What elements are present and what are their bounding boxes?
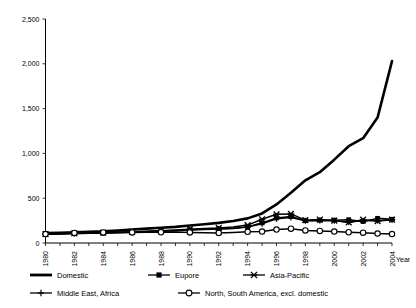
y-tick-label: 1,500 [22, 105, 40, 112]
x-tick-label: 1998 [302, 251, 309, 267]
marker-open-circle [389, 231, 394, 236]
line-chart: 05001,0001,5002,0002,500 198019821984198… [0, 0, 416, 308]
y-tick-label: 0 [36, 240, 40, 247]
x-tick-label: 2004 [389, 251, 396, 267]
marker-open-circle [186, 290, 192, 296]
x-tick-label: 1990 [186, 251, 193, 267]
y-tick-label: 500 [28, 195, 40, 202]
marker-star [251, 272, 258, 278]
legend-label: Domestic [57, 271, 89, 280]
marker-open-circle [288, 226, 293, 231]
x-axis-title: Year [396, 256, 411, 263]
legend-item-domestic[interactable]: Domestic [30, 271, 89, 280]
legend-label: Middle East, Africa [57, 289, 120, 298]
marker-open-circle [43, 231, 48, 236]
series-line [46, 61, 393, 233]
y-tick-label: 2,000 [22, 60, 40, 67]
legend-item-eupore[interactable]: Eupore [148, 271, 199, 280]
marker-open-circle [158, 230, 163, 235]
marker-open-circle [360, 230, 365, 235]
legend-label: North, South America, excl. domestic [205, 289, 328, 298]
y-tick-label: 2,500 [22, 16, 40, 23]
chart-legend: DomesticEuporeAsia-PacificMiddle East, A… [30, 271, 328, 298]
marker-open-circle [259, 229, 264, 234]
marker-open-circle [375, 231, 380, 236]
x-axis-tick-group: 1980198219841986198819901992199419961998… [42, 243, 396, 267]
legend-item-middle-east-africa[interactable]: Middle East, Africa [30, 289, 120, 298]
marker-open-circle [187, 230, 192, 235]
marker-open-circle [216, 230, 221, 235]
marker-open-circle [346, 230, 351, 235]
marker-open-circle [129, 230, 134, 235]
x-tick-label: 1994 [244, 251, 251, 267]
y-axis-tick-group: 05001,0001,5002,0002,500 [22, 16, 46, 247]
series-domestic [46, 61, 393, 233]
marker-open-circle [245, 229, 250, 234]
marker-filled-square [156, 272, 161, 277]
legend-item-north-south-america-excl-domestic[interactable]: North, South America, excl. domestic [178, 289, 328, 298]
marker-open-circle [303, 228, 308, 233]
x-tick-label: 1988 [158, 251, 165, 267]
x-tick-label: 2002 [360, 251, 367, 267]
y-tick-label: 1,000 [22, 150, 40, 157]
legend-label: Eupore [175, 271, 199, 280]
data-series-group [42, 61, 395, 237]
x-tick-label: 1980 [42, 251, 49, 267]
legend-item-asia-pacific[interactable]: Asia-Pacific [243, 271, 309, 280]
marker-open-circle [72, 230, 77, 235]
x-tick-label: 1982 [71, 251, 78, 267]
x-tick-label: 1992 [215, 251, 222, 267]
marker-plus [38, 290, 44, 296]
marker-open-circle [317, 228, 322, 233]
x-tick-label: 1984 [100, 251, 107, 267]
x-tick-label: 1996 [273, 251, 280, 267]
chart-container: 05001,0001,5002,0002,500 198019821984198… [0, 0, 416, 308]
x-tick-label: 2000 [331, 251, 338, 267]
marker-open-circle [274, 227, 279, 232]
legend-label: Asia-Pacific [270, 271, 309, 280]
x-tick-label: 1986 [129, 251, 136, 267]
marker-open-circle [332, 229, 337, 234]
marker-open-circle [101, 230, 106, 235]
